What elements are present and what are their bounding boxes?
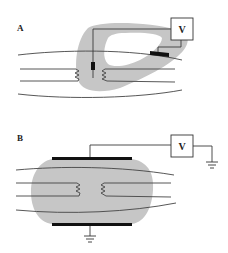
panel-b-voltmeter-label: V xyxy=(178,141,186,152)
panel-b-label: B xyxy=(17,133,23,143)
panel-b-bath xyxy=(31,159,153,224)
panel-a-label: A xyxy=(17,23,24,33)
panel-b: B V xyxy=(16,133,218,242)
panel-b-top-plate xyxy=(52,157,132,160)
panel-a-probe-electrode xyxy=(91,62,95,70)
ground-icon xyxy=(84,236,96,242)
panel-b-wire-top xyxy=(90,145,171,157)
ground-icon xyxy=(206,162,218,168)
panel-a: A V xyxy=(17,18,193,97)
panel-a-voltmeter-label: V xyxy=(178,24,186,35)
panel-b-wire-ground xyxy=(193,146,212,162)
diagram-canvas: A V B xyxy=(0,0,228,253)
panel-b-bottom-plate xyxy=(52,223,132,226)
